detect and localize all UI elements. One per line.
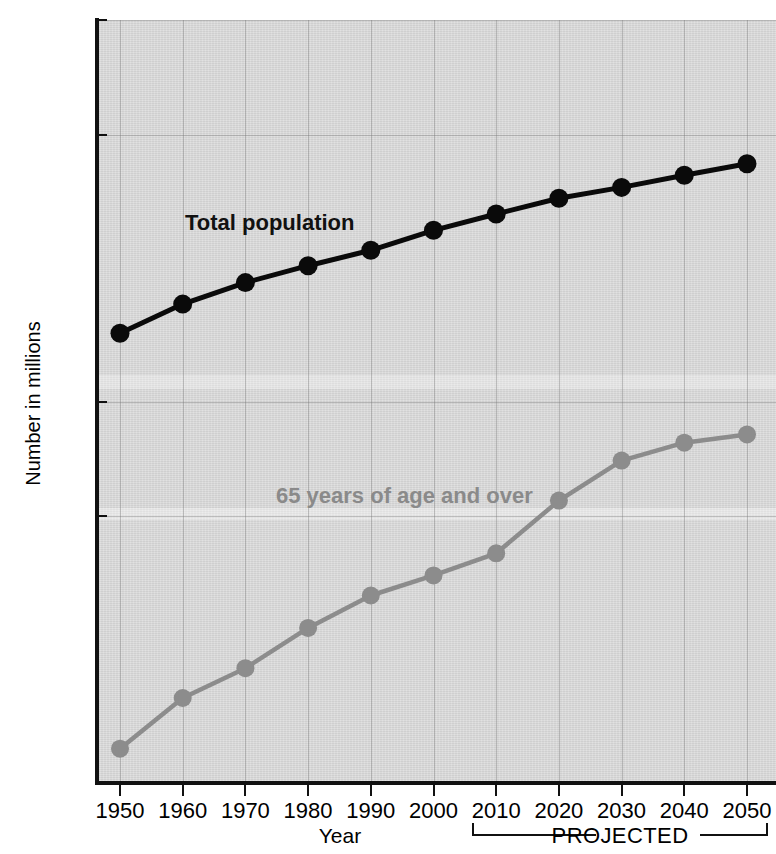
data-point	[612, 178, 631, 197]
data-point	[550, 492, 568, 510]
data-point	[361, 241, 380, 260]
data-point	[173, 295, 192, 314]
population-log-chart: 1,0005001005010 195019601970198019902000…	[0, 0, 776, 854]
series-line-total-population	[120, 164, 747, 334]
data-point	[236, 659, 254, 677]
data-point	[675, 166, 694, 185]
annotation-65-and-over: 65 years of age and over	[276, 483, 533, 509]
data-point	[299, 619, 317, 637]
projected-bracket-right-line	[700, 834, 768, 836]
x-axis-title: Year	[319, 824, 361, 848]
series-markers-65-and-over	[111, 425, 756, 757]
projected-bracket: PROJECTED	[472, 823, 768, 837]
data-point	[362, 587, 380, 605]
data-point	[424, 221, 443, 240]
data-point	[299, 256, 318, 275]
data-point	[613, 452, 631, 470]
series-layer	[0, 0, 776, 854]
data-point	[111, 324, 130, 343]
data-point	[549, 189, 568, 208]
data-point	[174, 689, 192, 707]
series-line-65-and-over	[120, 434, 747, 748]
data-point	[111, 740, 129, 758]
projected-label: PROJECTED	[552, 823, 689, 849]
data-point	[425, 566, 443, 584]
data-point	[738, 425, 756, 443]
y-axis-title: Number in millions	[22, 294, 45, 514]
data-point	[675, 434, 693, 452]
data-point	[487, 544, 505, 562]
projected-bracket-right-tick	[766, 823, 768, 836]
data-point	[738, 154, 757, 173]
data-point	[487, 205, 506, 224]
annotation-total-population: Total population	[185, 210, 354, 236]
data-point	[236, 273, 255, 292]
